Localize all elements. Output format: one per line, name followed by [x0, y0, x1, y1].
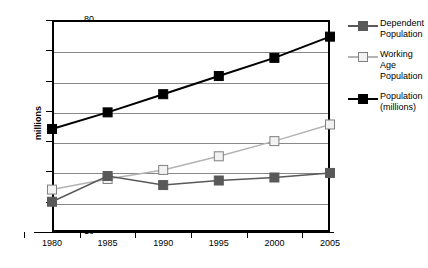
- legend-marker: [358, 52, 368, 62]
- x-axis-tick-mark: [302, 232, 303, 238]
- legend-label: Working Age Population: [378, 49, 426, 82]
- data-point-marker: [48, 197, 57, 206]
- legend-entry[interactable]: Dependent Population: [348, 18, 426, 40]
- data-point-marker: [270, 53, 279, 62]
- series-layer: [52, 20, 330, 232]
- legend-key: [348, 50, 378, 64]
- data-point-marker: [159, 165, 168, 174]
- legend-key: [348, 19, 378, 33]
- series-2: [48, 32, 335, 133]
- data-point-marker: [214, 176, 223, 185]
- series-0: [48, 168, 335, 206]
- population-line-chart: millions 1020304050607080 19801985199019…: [0, 0, 428, 268]
- data-point-marker: [48, 125, 57, 134]
- data-point-marker: [159, 181, 168, 190]
- y-axis-title: millions: [33, 93, 43, 153]
- data-point-marker: [326, 120, 335, 129]
- data-point-marker: [103, 108, 112, 117]
- x-axis-tick-mark: [80, 232, 81, 238]
- x-axis-tick-label: 2000: [254, 238, 294, 248]
- legend-label: Population (millions): [378, 91, 426, 113]
- legend-entry[interactable]: Population (millions): [348, 91, 426, 113]
- x-axis-tick-label: 1985: [88, 238, 128, 248]
- data-point-marker: [270, 173, 279, 182]
- x-axis-tick-label: 1995: [199, 238, 239, 248]
- x-axis-tick-mark: [247, 232, 248, 238]
- series-line: [52, 124, 330, 189]
- x-axis-tick-mark: [135, 232, 136, 238]
- x-axis-tick-mark: [24, 232, 25, 238]
- legend-label: Dependent Population: [378, 18, 426, 40]
- x-axis-tick-label: 1980: [32, 238, 72, 248]
- data-point-marker: [214, 152, 223, 161]
- series-line: [52, 37, 330, 129]
- legend-entry[interactable]: Working Age Population: [348, 49, 426, 82]
- x-axis-tick-label: 1990: [143, 238, 183, 248]
- legend-marker: [358, 21, 368, 31]
- x-axis-tick-mark: [191, 232, 192, 238]
- data-point-marker: [326, 32, 335, 41]
- data-point-marker: [326, 168, 335, 177]
- data-point-marker: [103, 171, 112, 180]
- data-point-marker: [48, 185, 57, 194]
- legend-marker: [358, 94, 368, 104]
- data-point-marker: [270, 137, 279, 146]
- x-axis-tick-label: 2005: [310, 238, 350, 248]
- data-point-marker: [214, 72, 223, 81]
- chart-legend: Dependent PopulationWorking Age Populati…: [348, 18, 426, 122]
- series-line: [52, 173, 330, 202]
- data-point-marker: [159, 90, 168, 99]
- legend-key: [348, 92, 378, 106]
